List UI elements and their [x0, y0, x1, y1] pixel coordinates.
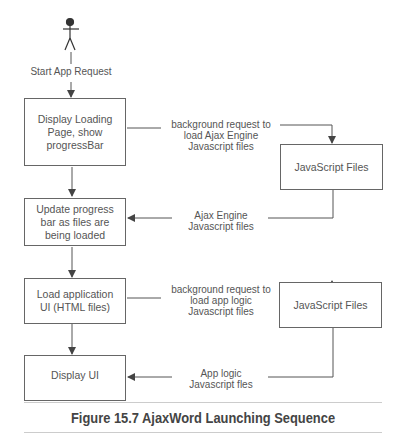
- message-load-app-logic: background request to load app logic Jav…: [166, 284, 276, 317]
- step-line: Display UI: [51, 369, 99, 382]
- step-line: Display Loading: [38, 113, 113, 126]
- caption-bottom-rule: [24, 432, 382, 433]
- caption-top-rule: [24, 402, 382, 403]
- message-ajax-engine-files: Ajax Engine Javascript files: [166, 210, 276, 232]
- message-line: Javascript files: [166, 141, 276, 152]
- message-line: Javascript files: [166, 306, 276, 317]
- start-app-request-label: Start App Request: [20, 66, 122, 77]
- step-line: bar as files are: [36, 216, 114, 229]
- actor-icon: [63, 19, 79, 51]
- resource-label: JavaScript Files: [294, 161, 368, 174]
- step-load-application-ui: Load application UI (HTML files): [24, 278, 126, 324]
- step-line: Load application: [37, 288, 113, 301]
- step-line: UI (HTML files): [37, 301, 113, 314]
- step-update-progress-bar: Update progress bar as files are being l…: [24, 198, 126, 246]
- step-line: Update progress: [36, 203, 114, 216]
- resource-javascript-files-1: JavaScript Files: [280, 144, 383, 190]
- message-app-logic-files: App logic Javascript fles: [166, 368, 276, 390]
- resource-javascript-files-2: JavaScript Files: [279, 282, 382, 328]
- resource-label: JavaScript Files: [293, 299, 367, 312]
- message-load-ajax-engine: background request to load Ajax Engine J…: [166, 119, 276, 152]
- message-line: load app logic: [166, 295, 276, 306]
- message-line: App logic: [166, 368, 276, 379]
- message-line: Ajax Engine: [166, 210, 276, 221]
- step-line: Page, show: [38, 126, 113, 139]
- step-line: being loaded: [36, 229, 114, 242]
- message-line: Javascript fles: [166, 379, 276, 390]
- step-line: progressBar: [38, 139, 113, 152]
- step-display-ui: Display UI: [24, 355, 126, 401]
- message-line: background request to: [166, 284, 276, 295]
- message-line: background request to: [166, 119, 276, 130]
- figure-caption: Figure 15.7 AjaxWord Launching Sequence: [38, 410, 367, 426]
- step-display-loading-page: Display Loading Page, show progressBar: [24, 98, 126, 166]
- message-line: Javascript files: [166, 221, 276, 232]
- message-line: load Ajax Engine: [166, 130, 276, 141]
